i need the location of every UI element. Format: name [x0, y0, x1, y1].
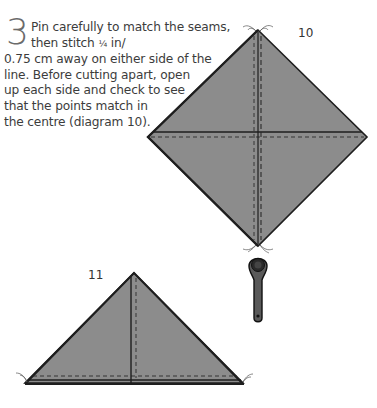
diagram-10 [148, 26, 367, 253]
rotary-cutter-icon [249, 259, 267, 322]
diagram-11 [16, 273, 253, 384]
